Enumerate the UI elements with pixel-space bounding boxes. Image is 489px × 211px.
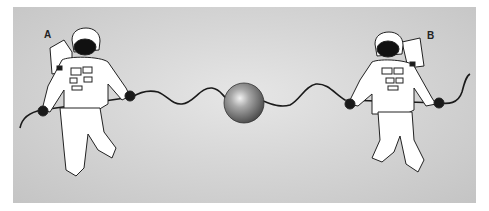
sphere [224, 83, 264, 123]
visor [74, 39, 96, 55]
diagram-svg [0, 0, 489, 211]
glove [434, 98, 444, 108]
glove [38, 106, 48, 116]
astronaut-a [38, 28, 135, 176]
glove [345, 99, 355, 109]
visor [377, 41, 399, 57]
astronaut-b [345, 32, 444, 172]
label-b: B [427, 30, 434, 41]
label-a: A [44, 29, 51, 40]
legs [60, 108, 116, 176]
legs [372, 112, 424, 172]
glove [125, 91, 135, 101]
